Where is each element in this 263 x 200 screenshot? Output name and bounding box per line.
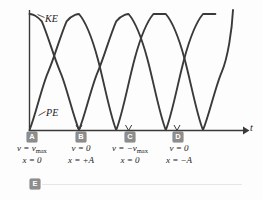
- tick-arrow-c: [126, 125, 132, 131]
- marker-b[interactable]: B: [76, 132, 86, 142]
- state-c-velocity-subscript: max: [137, 147, 148, 154]
- marker-a[interactable]: A: [27, 132, 37, 142]
- pe-curve-label: PE: [46, 107, 59, 118]
- tick-arrow-d: [174, 125, 180, 131]
- state-d-position: x = −A: [148, 155, 210, 167]
- bottom-divider: [42, 184, 242, 185]
- pe-leader-line: [39, 112, 46, 116]
- state-a-velocity-subscript: max: [36, 147, 47, 154]
- t-axis-label: t: [250, 122, 253, 133]
- t-axis-arrowhead: [243, 127, 250, 135]
- plot-canvas: [0, 0, 263, 200]
- state-d-velocity: v = 0: [148, 143, 210, 155]
- marker-c[interactable]: C: [125, 132, 135, 142]
- marker-e[interactable]: E: [30, 179, 40, 189]
- marker-d[interactable]: D: [173, 132, 183, 142]
- state-column-d: v = 0 x = −A: [148, 143, 210, 166]
- energy-vs-time-figure: KE PE t A B C D E v = vmax x = 0 v = 0 x…: [0, 0, 263, 200]
- ke-curve-label: KE: [45, 13, 58, 24]
